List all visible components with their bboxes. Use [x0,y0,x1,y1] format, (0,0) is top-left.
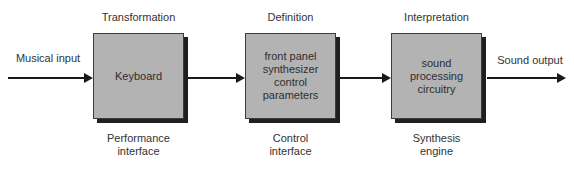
stage-box-text-keyboard: Keyboard [115,70,162,83]
stage-bottom-label-synthesis-engine: Synthesis engine [391,132,482,158]
arrow-line-parameters-to-processing [340,77,383,79]
stage-bottom-label-control-interface: Control interface [245,132,336,158]
stage-box-text-sound-processing: sound processing circuitry [410,57,463,96]
output-arrow-line [487,77,558,79]
stage-box-control-parameters: front panel synthesizer control paramete… [245,33,336,119]
stage-box-text-control-parameters: front panel synthesizer control paramete… [263,50,319,102]
arrow-line-keyboard-to-parameters [188,77,237,79]
output-label: Sound output [490,54,570,67]
input-arrow-head-icon [84,73,93,83]
stage-box-keyboard: Keyboard [93,33,184,119]
synthesizer-signal-flow-diagram: Transformation Definition Interpretation… [0,0,574,169]
stage-bottom-label-performance-interface: Performance interface [93,132,184,158]
arrow-head-keyboard-to-parameters-icon [236,73,245,83]
stage-top-label-interpretation: Interpretation [391,11,482,24]
output-arrow-head-icon [557,73,566,83]
stage-box-sound-processing: sound processing circuitry [391,33,482,119]
stage-top-label-definition: Definition [245,11,336,24]
input-label: Musical input [8,52,88,65]
arrow-head-parameters-to-processing-icon [382,73,391,83]
input-arrow-line [8,77,85,79]
stage-top-label-transformation: Transformation [93,11,184,24]
